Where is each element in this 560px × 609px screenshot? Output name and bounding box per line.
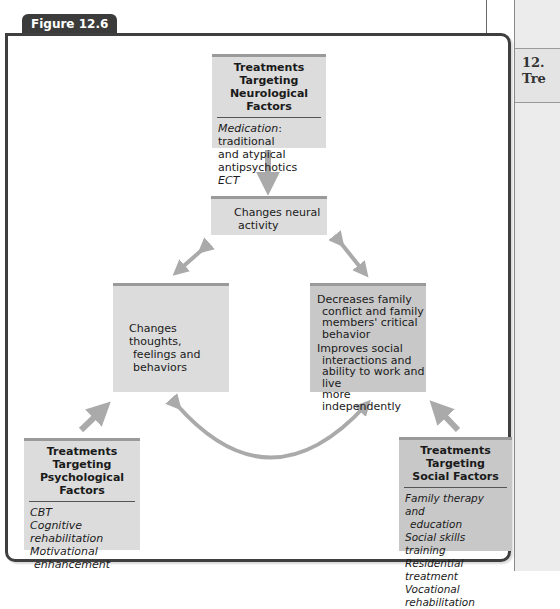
social-item-family-therapy: Family therapy and [399, 492, 512, 518]
arrow-neural-thoughts-bidirectional [178, 249, 203, 271]
arrow-social-to-outcome [437, 408, 458, 430]
box-social-treatments: Treatments Targeting Social Factors Fami… [399, 437, 512, 551]
box-psychological-treatments: Treatments Targeting Psychological Facto… [24, 438, 140, 550]
social-item-vocational: Vocational rehabilitation [399, 583, 512, 609]
social-item-skills-training: Social skills training [399, 531, 512, 557]
psych-item-cbt: CBT [24, 506, 140, 519]
neuro-item-ect: ECT [212, 174, 326, 187]
neuro-title-2: Neurological Factors [221, 87, 317, 113]
arrow-psych-to-thoughts [81, 409, 103, 430]
neuro-title-1: Treatments Targeting [221, 61, 317, 87]
box-social-outcome: Decreases family conflict and family mem… [310, 283, 426, 392]
arrow-neural-social-bidirectional [340, 242, 364, 272]
neuro-item-medication: Medication [218, 122, 278, 135]
psych-item-cognitive-rehab: Cognitive rehabilitation [24, 519, 140, 545]
social-item-residential: Residential treatment [399, 557, 512, 583]
psych-item-motivational: Motivational [24, 545, 140, 558]
box-changes-thoughts: Changes thoughts, feelings and behaviors [113, 283, 229, 392]
box-neurological-treatments: Treatments Targeting Neurological Factor… [212, 54, 326, 148]
box-changes-neural-activity: Changes neural activity [211, 196, 327, 235]
arrow-curved-bidirectional [177, 405, 366, 458]
